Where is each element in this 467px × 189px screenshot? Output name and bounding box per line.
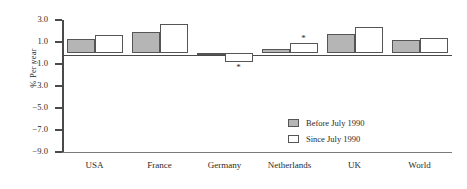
bar-germany-before xyxy=(197,53,225,55)
bar-france-since xyxy=(160,24,188,53)
y-axis-tick-label-wrap: 3.0 xyxy=(0,14,55,24)
y-axis-tick-label: −5.0 xyxy=(0,102,48,112)
annotation-asterisk: * xyxy=(233,63,245,72)
legend-swatch-since-icon xyxy=(288,135,299,143)
bar-netherlands-before xyxy=(262,49,290,53)
bar-world-since xyxy=(420,38,448,53)
legend-item-since: Since July 1990 xyxy=(288,133,365,144)
legend-item-before: Before July 1990 xyxy=(288,117,365,128)
y-axis-tick xyxy=(55,85,62,86)
zero-baseline xyxy=(62,55,452,57)
y-axis-tick-label: 1.0 xyxy=(0,36,48,46)
y-axis-tick xyxy=(55,151,62,152)
category-label-world: World xyxy=(375,160,465,170)
y-axis-tick-label: −3.0 xyxy=(0,80,48,90)
y-axis-tick-label: −1.0 xyxy=(0,58,48,68)
chart-legend: Before July 1990 Since July 1990 xyxy=(288,117,365,149)
y-axis-tick xyxy=(55,129,62,130)
y-axis-tick-label: −9.0 xyxy=(0,146,48,156)
y-axis-tick xyxy=(55,107,62,108)
bar-uk-before xyxy=(327,34,355,53)
y-axis-tick-label-wrap: −3.0 xyxy=(0,80,55,90)
bar-chart-figure: % Per year 3.01.0−1.0−3.0−5.0−7.0−9.0 **… xyxy=(0,0,467,189)
x-axis-line xyxy=(62,152,452,153)
y-axis-tick-label: −7.0 xyxy=(0,124,48,134)
y-axis-tick-label-wrap: −9.0 xyxy=(0,146,55,156)
y-axis-tick-label-wrap: −5.0 xyxy=(0,102,55,112)
bar-world-before xyxy=(392,40,420,53)
y-axis-tick-label-wrap: −1.0 xyxy=(0,58,55,68)
y-axis-tick-label-wrap: 1.0 xyxy=(0,36,55,46)
bar-uk-since xyxy=(355,27,383,53)
bar-usa-before xyxy=(67,39,95,53)
y-axis-tick xyxy=(55,41,62,42)
legend-label-since: Since July 1990 xyxy=(306,134,360,144)
y-axis-tick-label: 3.0 xyxy=(0,14,48,24)
legend-swatch-before-icon xyxy=(288,119,299,127)
y-axis-tick xyxy=(55,19,62,20)
bar-usa-since xyxy=(95,35,123,53)
bar-netherlands-since xyxy=(290,43,318,53)
y-axis-line xyxy=(62,20,64,152)
annotation-asterisk: * xyxy=(298,34,310,43)
y-axis-tick-label-wrap: −7.0 xyxy=(0,124,55,134)
bar-france-before xyxy=(132,32,160,53)
legend-label-before: Before July 1990 xyxy=(306,118,365,128)
bar-germany-since xyxy=(225,53,253,62)
y-axis-tick xyxy=(55,63,62,64)
